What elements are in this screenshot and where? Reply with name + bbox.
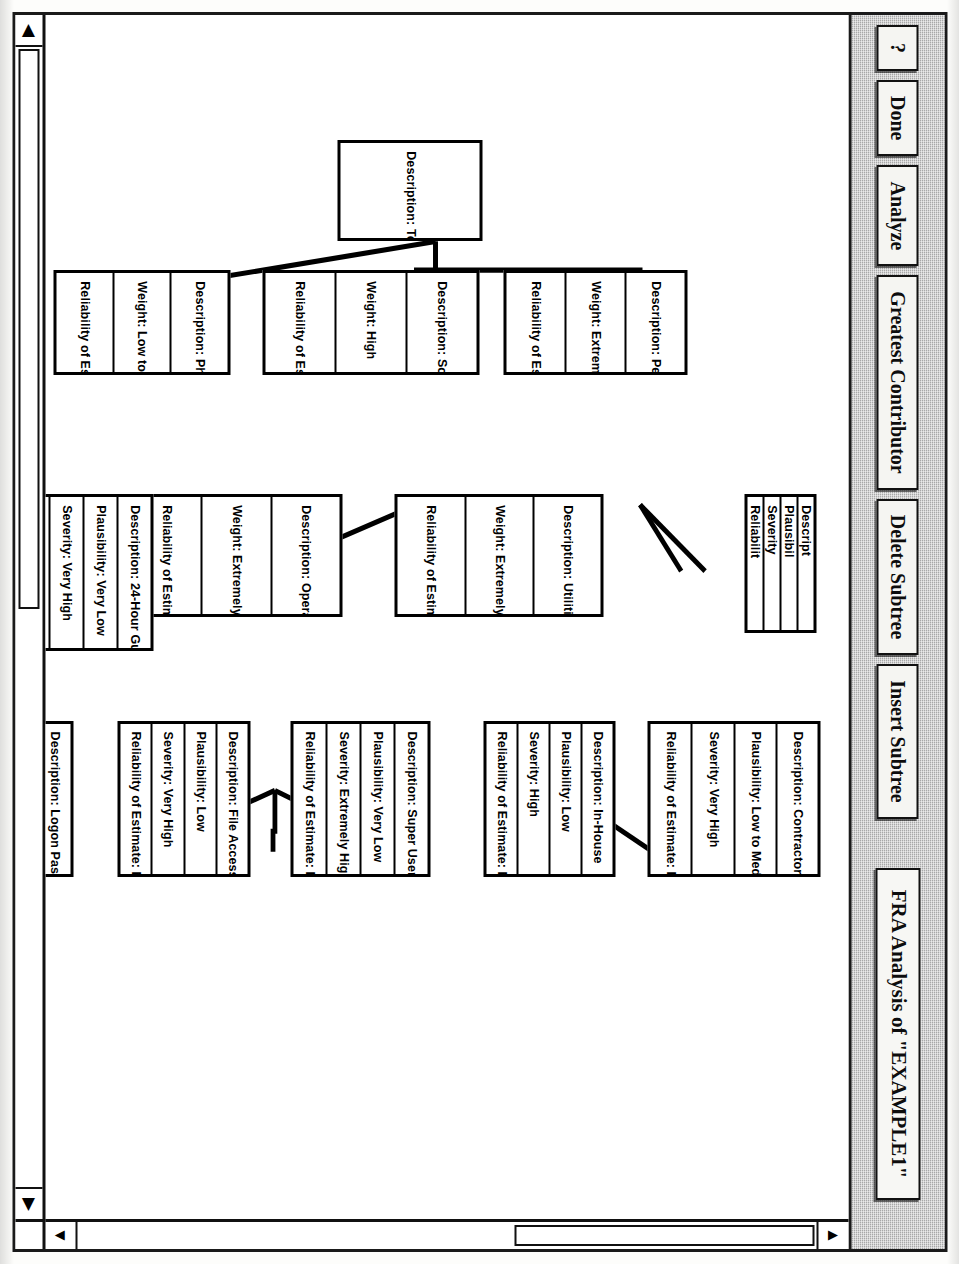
toolbar: ? Done Analyze Greatest Contributor Dele… [848, 15, 944, 1249]
tree-canvas[interactable]: Description: Total System Description: P… [45, 15, 848, 1219]
horizontal-scroll-thumb[interactable] [18, 49, 39, 609]
node-field-description: Description: Utilities [532, 497, 600, 614]
node-field-reliability: Reliability of Estimate: Low to [650, 724, 690, 875]
node-field-weight: Weight: High [334, 273, 405, 372]
node-field-reliability: Reliabilit [747, 497, 762, 629]
node-field-description: Description: Super User Access [393, 724, 427, 875]
node-personnel-security[interactable]: Description: Personnel Security Weight: … [503, 270, 688, 375]
node-field-severity: Severity: Extremely High [325, 724, 359, 875]
node-field-description: Description: In-House [580, 724, 612, 875]
node-24-hour-guard[interactable]: Description: 24-Hour Guard Plausibility:… [45, 494, 153, 651]
node-contractor[interactable]: Description: Contractor Plausibility: Lo… [647, 721, 820, 878]
node-field-weight: Weight: Extremely High [200, 497, 270, 614]
node-in-house[interactable]: Description: In-House Plausibility: Low … [483, 721, 615, 878]
analyze-button[interactable]: Analyze [877, 165, 919, 266]
node-field-reliability: Reliability of Estimate: Medium [120, 724, 150, 875]
node-field-severity: Severity: Very High [690, 724, 732, 875]
node-file-access[interactable]: Description: File Access Plausibility: L… [117, 721, 249, 878]
node-field-description: Description: Logon Passwords [45, 724, 70, 875]
node-field-plausibility: Plausibil [779, 497, 796, 629]
node-utilities[interactable]: Description: Utilities Weight: Extremely… [394, 494, 603, 617]
node-field-plausibility: Plausibility: Low [183, 724, 215, 875]
done-button[interactable]: Done [877, 80, 919, 156]
node-logon-passwords[interactable]: Description: Logon Passwords Plausibilit… [45, 721, 73, 878]
fra-analysis-window: ? Done Analyze Greatest Contributor Dele… [12, 12, 947, 1252]
node-field-description: Description: Physical Security [169, 273, 227, 372]
node-field-description: Description: 24-Hour Guard [116, 497, 150, 648]
vertical-scroll-thumb[interactable] [514, 1225, 814, 1246]
canvas-area: Description: Total System Description: P… [15, 15, 848, 1249]
node-field-description: Description: Operating System [270, 497, 340, 614]
node-field-reliability: Reliability of Estimate: Extremely High [397, 497, 463, 614]
node-field-reliability: Reliability of Estimate: Rather High [293, 724, 325, 875]
horizontal-scrollbar[interactable]: ◀ ▶ [15, 15, 45, 1219]
help-button[interactable]: ? [877, 25, 919, 71]
delete-subtree-button[interactable]: Delete Subtree [877, 499, 919, 656]
node-field-reliability: Reliability of Estimate: High [56, 273, 112, 372]
node-super-user-access[interactable]: Description: Super User Access Plausibil… [290, 721, 431, 878]
vertical-scrollbar[interactable]: ▲ ▼ [45, 1219, 848, 1249]
scroll-down-icon[interactable]: ▼ [45, 1222, 77, 1249]
insert-subtree-button[interactable]: Insert Subtree [877, 664, 919, 818]
tree-canvas-inner: Description: Total System Description: P… [45, 15, 848, 1219]
node-field-weight: Weight: Extremely High [464, 497, 532, 614]
node-field-reliability: Reliability of Estimate: Medium [486, 724, 516, 875]
node-field-description: Description: File Access [215, 724, 247, 875]
node-field-description: Description: Contractor [775, 724, 817, 875]
scrollbar-corner [15, 1219, 45, 1249]
node-field-plausibility: Plausibility: Very Low [82, 497, 116, 648]
node-field-description: Descript [796, 497, 813, 629]
scroll-up-icon[interactable]: ▲ [816, 1222, 848, 1249]
node-field-severity: Severity: Very High [48, 497, 82, 648]
node-field-description: Description: Total System [340, 143, 479, 238]
node-field-reliability: Reliability of Estimate: Medium to High [265, 273, 334, 372]
scroll-right-icon[interactable]: ▶ [15, 1187, 42, 1219]
node-software-security[interactable]: Description: Software Security Weight: H… [262, 270, 479, 375]
scanned-page: ? Done Analyze Greatest Contributor Dele… [0, 0, 959, 1264]
scroll-left-icon[interactable]: ◀ [15, 15, 42, 47]
node-field-plausibility: Plausibility: Very Low [359, 724, 393, 875]
node-field-description: Description: Personnel Security [624, 273, 684, 372]
node-field-reliability: Reliability of Estimate: Medium [45, 497, 48, 648]
node-physical-security[interactable]: Description: Physical Security Weight: L… [53, 270, 230, 375]
node-operating-system[interactable]: Description: Operating System Weight: Ex… [129, 494, 342, 617]
node-field-weight: Weight: Extremely High [564, 273, 624, 372]
node-total-system[interactable]: Description: Total System [337, 140, 482, 241]
node-field-plausibility: Plausibility: Low to Medium [733, 724, 775, 875]
node-field-description: Description: Software Security [405, 273, 476, 372]
node-field-reliability: Reliability of Estimate: Extremel [506, 273, 564, 372]
node-field-severity: Severity: Very High [150, 724, 182, 875]
node-clipped-top[interactable]: Descript Plausibil Severity Reliabilit [744, 494, 816, 632]
window-title: FRA Analysis of "EXAMPLE1" [875, 868, 920, 1201]
node-field-severity: Severity [762, 497, 779, 629]
node-field-plausibility: Plausibility: Low [548, 724, 580, 875]
node-field-weight: Weight: Low to Medium [112, 273, 170, 372]
node-field-severity: Severity: High [516, 724, 548, 875]
greatest-contributor-button[interactable]: Greatest Contributor [877, 275, 919, 489]
